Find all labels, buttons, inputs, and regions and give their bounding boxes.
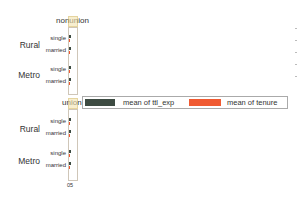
group-label-rural: Rural bbox=[0, 124, 40, 134]
category-label-married: married bbox=[36, 162, 66, 168]
bar-ttl-exp bbox=[69, 35, 71, 38]
group-label-rural: Rural bbox=[0, 40, 40, 50]
facet-title-highlight bbox=[68, 16, 78, 27]
category-label-married: married bbox=[36, 130, 66, 136]
group-label-metro: Metro bbox=[0, 70, 40, 80]
right-tick bbox=[295, 52, 297, 53]
bar-tenure bbox=[69, 134, 70, 137]
bar-ttl-exp bbox=[69, 47, 71, 50]
category-label-single: single bbox=[36, 150, 66, 156]
bar-ttl-exp bbox=[69, 118, 71, 121]
right-tick bbox=[295, 40, 297, 41]
bar-ttl-exp bbox=[69, 150, 71, 153]
right-tick bbox=[295, 64, 297, 65]
bar-tenure bbox=[69, 154, 70, 157]
bar-tenure bbox=[69, 70, 70, 73]
bar-tenure bbox=[69, 122, 70, 125]
legend-label-ttl-exp: mean of ttl_exp bbox=[123, 98, 174, 107]
category-label-married: married bbox=[36, 78, 66, 84]
legend: mean of ttl_exp mean of tenure bbox=[82, 96, 288, 109]
right-tick bbox=[295, 28, 297, 29]
bar-ttl-exp bbox=[69, 78, 71, 81]
bar-ttl-exp bbox=[69, 66, 71, 69]
bar-ttl-exp bbox=[69, 162, 71, 165]
bar-tenure bbox=[69, 166, 70, 169]
legend-label-tenure: mean of tenure bbox=[227, 98, 277, 107]
bar-tenure bbox=[69, 51, 70, 54]
group-label-metro: Metro bbox=[0, 156, 40, 166]
bar-tenure bbox=[69, 39, 70, 42]
legend-swatch-ttl-exp bbox=[85, 99, 115, 106]
right-tick bbox=[295, 76, 297, 77]
category-label-single: single bbox=[36, 35, 66, 41]
category-label-single: single bbox=[36, 118, 66, 124]
facet-title-highlight bbox=[68, 98, 78, 109]
x-tick-label: 05 bbox=[67, 182, 73, 188]
legend-swatch-tenure bbox=[189, 99, 221, 106]
bar-ttl-exp bbox=[69, 130, 71, 133]
category-label-single: single bbox=[36, 66, 66, 72]
bar-tenure bbox=[69, 82, 70, 85]
category-label-married: married bbox=[36, 47, 66, 53]
